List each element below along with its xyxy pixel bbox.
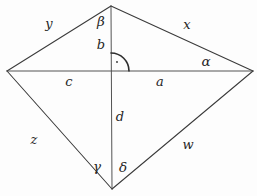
label-side-y: y — [45, 17, 52, 30]
label-angle-delta: δ — [119, 161, 127, 175]
diagonal-vertical — [111, 6, 112, 189]
label-segment-c: c — [65, 75, 72, 88]
label-segment-a: a — [156, 75, 164, 88]
geometry-figure: y x β b α c a d z w γ δ — [0, 0, 257, 196]
label-segment-b: b — [97, 38, 105, 51]
figure-canvas — [0, 0, 257, 196]
label-angle-gamma: γ — [93, 160, 101, 174]
label-side-w: w — [182, 138, 193, 151]
label-side-x: x — [183, 18, 190, 31]
label-segment-d: d — [116, 110, 124, 123]
right-angle-marker-arc — [111, 53, 129, 71]
label-angle-beta: β — [97, 15, 105, 29]
edge-top-right — [111, 6, 253, 71]
label-side-z: z — [31, 133, 38, 146]
edge-top-left — [7, 6, 111, 71]
edge-bottom-right — [112, 71, 253, 189]
right-angle-marker-dot — [116, 61, 118, 63]
label-angle-alpha: α — [201, 55, 210, 69]
